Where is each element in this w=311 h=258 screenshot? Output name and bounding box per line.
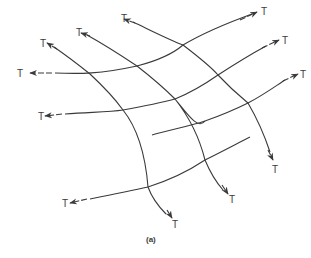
tension-arrow-top (47, 43, 57, 49)
mesh-column-line (87, 35, 223, 190)
tension-label: T (282, 35, 288, 46)
tension-label: T (62, 198, 68, 209)
mesh-rows (30, 12, 298, 203)
tension-arrow-bottom (268, 150, 273, 160)
tension-label: T (300, 69, 306, 80)
tension-labels: TTTTTTTTTTTT (17, 6, 306, 230)
mesh-row-line (55, 14, 252, 73)
tension-label: T (40, 38, 46, 49)
tension-label: T (76, 27, 82, 38)
tension-arrow-bottom (167, 210, 172, 218)
tension-label: T (272, 164, 278, 175)
tension-label: T (38, 111, 44, 122)
mesh-columns (47, 19, 273, 218)
tension-label: T (261, 6, 267, 17)
tension-arrow-right (262, 40, 279, 48)
tension-label: T (172, 219, 178, 230)
tension-arrow-right (240, 12, 257, 20)
tension-arrow-top (81, 33, 90, 36)
mesh-column-line (54, 47, 166, 214)
tension-mesh-diagram: TTTTTTTTTTTT (a) (0, 0, 311, 258)
tension-arrow-right (283, 74, 298, 81)
tension-label: T (121, 13, 127, 24)
mesh-row-line (90, 137, 250, 199)
tension-label: T (229, 194, 235, 205)
figure-caption: (a) (146, 235, 156, 244)
mesh-row-line (152, 80, 285, 135)
tension-arrow-left (45, 114, 62, 116)
tension-label: T (17, 68, 23, 79)
mesh-column-line (133, 22, 270, 152)
tension-arrow-left (70, 199, 87, 203)
